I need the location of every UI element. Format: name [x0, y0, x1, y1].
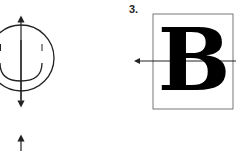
letter-b: B: [156, 14, 232, 106]
smiley-face-icon: [0, 25, 54, 91]
figure-label: 3.: [129, 3, 138, 15]
